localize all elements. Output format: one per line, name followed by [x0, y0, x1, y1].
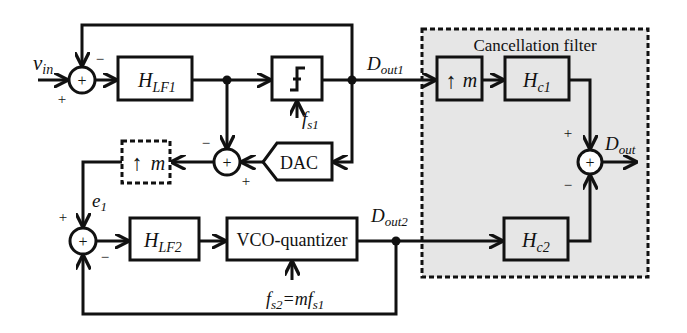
cancellation-filter-title: Cancellation filter [473, 36, 597, 55]
block-hlf2: HLF2 [130, 218, 199, 260]
label-vin: vin [33, 51, 53, 77]
summer-3-plus-sign: + [564, 125, 572, 141]
svg-text:↑: ↑ [132, 150, 143, 175]
label-dout2: Dout2 [370, 205, 408, 229]
svg-text:m: m [463, 69, 477, 91]
svg-text:HLF1: HLF1 [137, 69, 176, 95]
svg-text:+: + [222, 154, 231, 171]
svg-text:+: + [78, 233, 87, 250]
label-fs2: fs2=mfs1 [266, 289, 324, 312]
junction-node [223, 76, 232, 85]
svg-text:DAC: DAC [280, 153, 318, 173]
label-e1: e1 [92, 190, 107, 214]
junction-node-dout1 [348, 76, 357, 85]
svg-text:+: + [77, 72, 86, 89]
block-hlf1: HLF1 [118, 57, 192, 100]
block-dac: DAC [263, 143, 332, 180]
svg-text:↑: ↑ [446, 68, 457, 93]
summer-2-plus-sign: + [242, 173, 250, 189]
svg-text:VCO-quantizer: VCO-quantizer [237, 230, 348, 250]
block-diagram: Cancellation filter [0, 0, 687, 333]
label-dout1: Dout1 [366, 53, 404, 77]
summer-1-plus-sign: + [58, 91, 66, 107]
block-upsampler-dashed: ↑ m [122, 141, 170, 183]
block-vco-quantizer: VCO-quantizer [227, 218, 357, 260]
summer-1-minus-sign: − [96, 51, 104, 67]
svg-text:m: m [151, 152, 165, 174]
junction-node-dout2 [392, 237, 401, 246]
quantizer-step-icon [290, 68, 305, 90]
summer-4-minus-sign: − [101, 249, 109, 265]
summer-4-plus-sign: + [59, 209, 67, 225]
label-fs1: fs1 [302, 108, 319, 132]
summer-3-minus-sign: − [564, 177, 572, 193]
block-quantizer [272, 57, 322, 100]
summer-2-minus-sign: − [202, 135, 210, 151]
svg-text:HLF2: HLF2 [143, 229, 182, 255]
svg-text:+: + [585, 154, 594, 171]
